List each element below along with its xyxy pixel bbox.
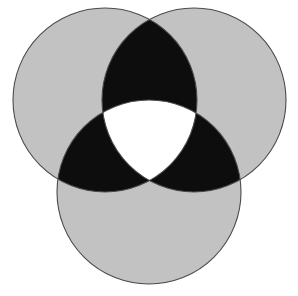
venn-figure-root [0, 0, 298, 296]
venn-diagram-svg [0, 0, 298, 296]
